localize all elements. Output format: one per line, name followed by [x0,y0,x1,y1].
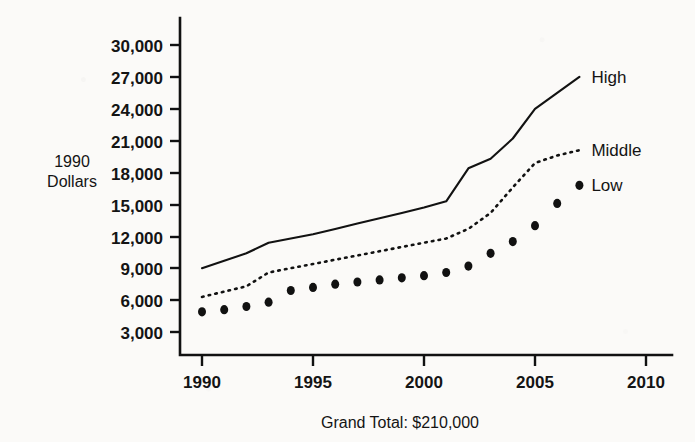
chart-figure: 1990 Dollars 30,000 27,000 24,000 21,000… [0,0,695,442]
series-marker-low [420,271,428,280]
y-tick-label-21000: 21,000 [111,133,163,152]
series-marker-low [464,262,472,271]
y-tick-label-3000: 3,000 [120,324,163,343]
x-tick-label-2000: 2000 [405,373,443,392]
x-tick-label-2010: 2010 [627,373,665,392]
y-tick-label-6000: 6,000 [120,292,163,311]
chart-caption: Grand Total: $210,000 [321,414,479,431]
series-marker-low [398,273,406,282]
series-marker-low [509,237,517,246]
series-marker-low [376,275,384,284]
series-marker-low [265,298,273,307]
y-tick-label-27000: 27,000 [111,69,163,88]
x-tick-label-1995: 1995 [294,373,332,392]
y-tick-label-15000: 15,000 [111,197,163,216]
y-tick-label-9000: 9,000 [120,260,163,279]
series-marker-low [287,286,295,295]
series-marker-low [353,277,361,286]
series-line-middle [202,150,579,297]
y-tick-label-24000: 24,000 [111,101,163,120]
series-marker-low [575,181,583,190]
series-marker-low [309,283,317,292]
y-tick-label-12000: 12,000 [111,229,163,248]
series-marker-low [220,305,228,314]
x-tick-label-2005: 2005 [516,373,554,392]
series-line-high [202,77,579,268]
series-label-high: High [591,68,626,87]
series-marker-low [242,302,250,311]
series-marker-low [198,307,206,316]
y-tick-label-18000: 18,000 [111,165,163,184]
series-marker-low [442,268,450,277]
chart-svg: 1990 Dollars 30,000 27,000 24,000 21,000… [0,0,695,442]
series-marker-low [553,199,561,208]
series-marker-low [531,221,539,230]
x-tick-marks [202,355,646,366]
y-tick-marks [170,45,180,332]
y-axis-label-line2: Dollars [47,173,97,190]
series-label-middle: Middle [591,141,641,160]
series-marker-low [331,280,339,289]
y-tick-label-30000: 30,000 [111,37,163,56]
series-marker-low [487,249,495,258]
y-axis-label-line1: 1990 [54,153,90,170]
x-tick-label-1990: 1990 [183,373,221,392]
series-label-low: Low [591,176,623,195]
